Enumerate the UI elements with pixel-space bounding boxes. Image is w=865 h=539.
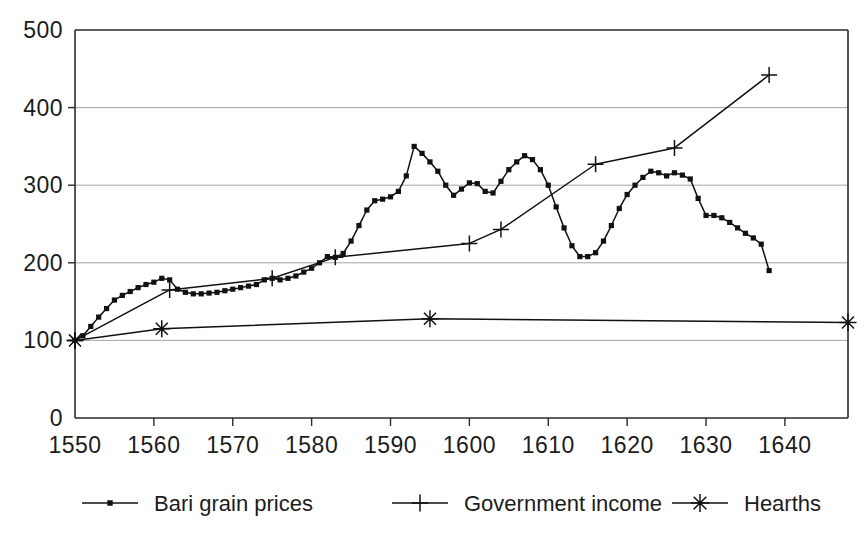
legend-marker-asterisk-icon [691,494,709,512]
marker-bari-grain-prices-1612 [561,225,566,230]
marker-bari-grain-prices-1616 [593,250,598,255]
line-chart-svg: 0100200300400500 15501560157015801590160… [0,0,865,539]
y-tick-label-400: 400 [23,95,63,121]
x-tick-label-1560: 1560 [127,432,180,458]
marker-bari-grain-prices-1572 [246,283,251,288]
marker-bari-grain-prices-1620 [625,192,630,197]
marker-bari-grain-prices-1618 [609,223,614,228]
marker-bari-grain-prices-1615 [585,254,590,259]
marker-bari-grain-prices-1611 [554,204,559,209]
marker-bari-grain-prices-1588 [372,198,377,203]
marker-bari-grain-prices-1629 [696,196,701,201]
marker-bari-grain-prices-1598 [451,193,456,198]
series-line-government-income [75,75,769,340]
marker-bari-grain-prices-1609 [538,167,543,172]
marker-hearths-1561 [153,320,170,337]
marker-bari-grain-prices-1561 [159,276,164,281]
marker-bari-grain-prices-1607 [522,153,527,158]
marker-bari-grain-prices-1608 [530,157,535,162]
marker-bari-grain-prices-1597 [443,183,448,188]
y-tick-label-0: 0 [50,405,63,431]
marker-bari-grain-prices-1619 [617,206,622,211]
legend-item-bari-grain-prices[interactable]: Bari grain prices [82,491,313,516]
legend-marker-plus-icon [412,495,429,512]
marker-bari-grain-prices-1617 [601,238,606,243]
marker-bari-grain-prices-1553 [96,315,101,320]
x-tick-label-1590: 1590 [364,432,417,458]
marker-bari-grain-prices-1601 [475,181,480,186]
marker-bari-grain-prices-1552 [88,324,93,329]
chart-figure: 0100200300400500 15501560157015801590160… [0,0,865,539]
legend-label-government-income: Government income [464,491,662,516]
marker-bari-grain-prices-1589 [380,197,385,202]
marker-bari-grain-prices-1594 [419,151,424,156]
x-tick-label-1630: 1630 [679,432,732,458]
marker-hearths-1595 [421,310,438,327]
x-tick-label-1580: 1580 [285,432,338,458]
marker-bari-grain-prices-1570 [230,287,235,292]
marker-bari-grain-prices-1631 [711,213,716,218]
marker-bari-grain-prices-1586 [356,223,361,228]
x-tick-label-1570: 1570 [206,432,259,458]
marker-bari-grain-prices-1582 [325,254,330,259]
marker-bari-grain-prices-1610 [546,183,551,188]
marker-bari-grain-prices-1590 [388,194,393,199]
marker-government-income-1562 [162,282,178,298]
marker-bari-grain-prices-1621 [632,183,637,188]
marker-bari-grain-prices-1565 [191,291,196,296]
marker-bari-grain-prices-1613 [569,243,574,248]
marker-bari-grain-prices-1560 [151,280,156,285]
legend-item-government-income[interactable]: Government income [392,491,662,516]
marker-bari-grain-prices-1593 [412,144,417,149]
x-tick-label-1550: 1550 [48,432,101,458]
marker-bari-grain-prices-1599 [459,186,464,191]
marker-bari-grain-prices-1635 [743,231,748,236]
marker-bari-grain-prices-1557 [128,289,133,294]
marker-bari-grain-prices-1638 [767,268,772,273]
marker-bari-grain-prices-1562 [167,277,172,282]
marker-bari-grain-prices-1625 [664,173,669,178]
legend-marker-dot-icon [107,500,112,505]
marker-bari-grain-prices-1624 [656,170,661,175]
marker-bari-grain-prices-1577 [285,276,290,281]
marker-bari-grain-prices-1555 [112,297,117,302]
marker-bari-grain-prices-1566 [199,291,204,296]
y-tick-label-500: 500 [23,17,63,43]
series-line-hearths [75,319,848,341]
marker-bari-grain-prices-1559 [143,282,148,287]
marker-bari-grain-prices-1603 [490,190,495,195]
marker-bari-grain-prices-1578 [293,273,298,278]
marker-bari-grain-prices-1605 [506,167,511,172]
marker-bari-grain-prices-1569 [222,288,227,293]
marker-bari-grain-prices-1637 [759,242,764,247]
marker-bari-grain-prices-1558 [136,285,141,290]
marker-government-income-1600 [461,235,477,251]
x-tick-label-1640: 1640 [758,432,811,458]
marker-government-income-1616 [588,156,604,172]
marker-bari-grain-prices-1614 [577,254,582,259]
marker-bari-grain-prices-1579 [301,270,306,275]
marker-bari-grain-prices-1630 [703,213,708,218]
marker-bari-grain-prices-1602 [483,189,488,194]
marker-bari-grain-prices-1584 [341,251,346,256]
x-tick-label-1610: 1610 [522,432,575,458]
marker-government-income-1638 [761,67,777,83]
y-tick-label-100: 100 [23,327,63,353]
marker-bari-grain-prices-1633 [727,220,732,225]
marker-bari-grain-prices-1606 [514,159,519,164]
marker-bari-grain-prices-1573 [254,282,259,287]
series-group [67,67,857,349]
marker-bari-grain-prices-1592 [404,173,409,178]
chart-legend: Bari grain pricesGovernment incomeHearth… [82,491,821,516]
marker-government-income-1626 [666,140,682,156]
marker-bari-grain-prices-1634 [735,225,740,230]
x-axis: 1550156015701580159016001610162016301640 [48,418,848,458]
x-tick-label-1620: 1620 [601,432,654,458]
legend-label-bari-grain-prices: Bari grain prices [154,491,313,516]
legend-item-hearths[interactable]: Hearths [672,491,821,516]
marker-government-income-1604 [493,221,509,237]
series-bari-grain-prices [72,144,771,343]
marker-bari-grain-prices-1622 [640,175,645,180]
marker-government-income-1575 [264,270,280,286]
marker-bari-grain-prices-1628 [688,176,693,181]
